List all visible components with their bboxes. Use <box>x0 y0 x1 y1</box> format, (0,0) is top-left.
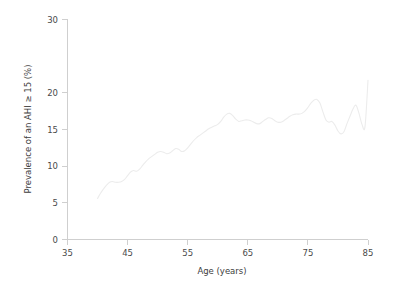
y-axis-ticks <box>62 20 68 240</box>
chart-canvas: 0 5 10 15 20 30 35 45 55 65 75 85 Age (y… <box>0 0 394 290</box>
y-axis-title: Prevalence of an AHI ≥ 15 (%) <box>23 65 33 194</box>
x-tick-label-65: 65 <box>242 248 253 258</box>
x-axis-title: Age (years) <box>197 266 246 276</box>
y-tick-label-10: 10 <box>47 161 58 171</box>
x-tick-label-85: 85 <box>363 248 374 258</box>
x-tick-label-55: 55 <box>182 248 193 258</box>
x-axis-ticks <box>68 240 369 246</box>
y-tick-label-15: 15 <box>47 125 58 135</box>
y-tick-label-20: 20 <box>47 88 58 98</box>
y-tick-label-30: 30 <box>47 15 58 25</box>
x-tick-label-45: 45 <box>122 248 133 258</box>
x-tick-label-35: 35 <box>62 248 73 258</box>
y-tick-label-0: 0 <box>53 235 58 245</box>
y-tick-label-5: 5 <box>53 198 58 208</box>
data-series-line <box>98 80 368 198</box>
x-tick-label-75: 75 <box>302 248 313 258</box>
chart-figure: 0 5 10 15 20 30 35 45 55 65 75 85 Age (y… <box>0 0 394 290</box>
